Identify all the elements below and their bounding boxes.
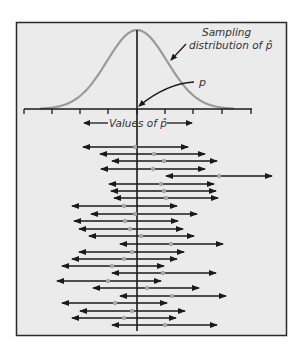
sample-p-hat-dot: [133, 145, 137, 149]
sample-p-hat-dot: [122, 316, 126, 320]
confidence-interval-diagram: Sampling distribution of p̂ p Values of …: [0, 0, 298, 353]
sample-p-hat-dot: [113, 301, 117, 305]
sample-p-hat-dot: [139, 234, 143, 238]
sample-p-hat-dot: [123, 219, 127, 223]
sample-p-hat-dot: [133, 212, 137, 216]
axis-label: Values of p̂: [109, 117, 167, 129]
sample-p-hat-dot: [122, 204, 126, 208]
sample-p-hat-dot: [128, 227, 132, 231]
sample-p-hat-dot: [145, 286, 149, 290]
sample-p-hat-dot: [130, 309, 134, 313]
sample-p-hat-dot: [122, 257, 126, 261]
sample-p-hat-dot: [152, 152, 156, 156]
sample-p-hat-dot: [162, 189, 166, 193]
sampling-label-line2: distribution of p̂: [189, 39, 273, 51]
sample-p-hat-dot: [169, 242, 173, 246]
sample-p-hat-dot: [163, 323, 167, 327]
sample-p-hat-dot: [159, 182, 163, 186]
sample-p-hat-dot: [110, 264, 114, 268]
sample-p-hat-dot: [162, 159, 166, 163]
sample-p-hat-dot: [217, 174, 221, 178]
sample-p-hat-dot: [164, 196, 168, 200]
sample-p-hat-dot: [106, 279, 110, 283]
sample-p-hat-dot: [170, 294, 174, 298]
sample-p-hat-dot: [161, 271, 165, 275]
sample-p-hat-dot: [130, 250, 134, 254]
p-label: p: [198, 76, 206, 89]
sampling-label-line1: Sampling: [202, 26, 251, 38]
sample-p-hat-dot: [151, 167, 155, 171]
